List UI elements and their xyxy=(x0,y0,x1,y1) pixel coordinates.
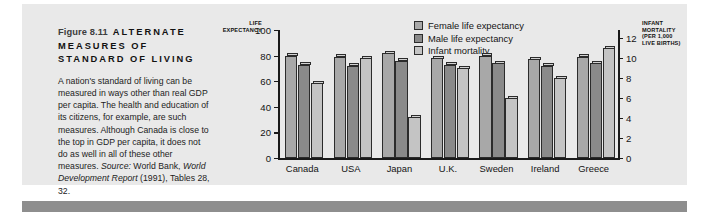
bar-top-cap xyxy=(530,57,540,60)
bar-top-cap xyxy=(398,58,408,61)
left-tick xyxy=(274,158,278,159)
left-tick-label: 20 xyxy=(241,127,271,138)
bar-top-cap xyxy=(349,63,359,66)
bar-male xyxy=(444,65,456,158)
right-tick-label: 0 xyxy=(626,153,650,164)
bar-infant xyxy=(603,48,615,158)
left-tick xyxy=(274,56,278,57)
bar-top-cap xyxy=(362,56,372,59)
bar-top-cap xyxy=(287,53,297,56)
right-tick-label: 4 xyxy=(626,113,650,124)
category-label: Sweden xyxy=(472,163,521,174)
footer-bar xyxy=(22,201,687,212)
bar-group xyxy=(479,30,517,158)
right-tick-label: 12 xyxy=(626,33,650,44)
left-tick xyxy=(274,107,278,108)
bar-top-cap xyxy=(605,46,615,49)
right-axis-title-line2: MORTALITY xyxy=(642,27,702,34)
bar-top-cap xyxy=(543,63,553,66)
bar-female xyxy=(528,59,540,158)
left-tick xyxy=(274,30,278,31)
caption-block: Figure 8.11 ALTERNATE MEASURES OF STANDA… xyxy=(58,26,210,197)
right-tick xyxy=(619,38,623,39)
bar-top-cap xyxy=(579,54,589,57)
bar-top-cap xyxy=(300,62,310,65)
bar-infant xyxy=(554,78,566,158)
right-axis-title-line1: INFANT xyxy=(642,20,702,27)
left-tick-label: 80 xyxy=(241,50,271,61)
legend-swatch-female xyxy=(414,21,423,30)
bar-infant xyxy=(505,98,517,158)
bar-top-cap xyxy=(446,62,456,65)
bar-male xyxy=(541,66,553,158)
left-tick-label: 0 xyxy=(241,153,271,164)
figure-page: Figure 8.11 ALTERNATE MEASURES OF STANDA… xyxy=(0,0,709,219)
bar-top-cap xyxy=(313,81,323,84)
bar-female xyxy=(285,56,297,158)
bar-top-cap xyxy=(482,53,492,56)
category-label: U.K. xyxy=(424,163,473,174)
bar-chart: LIFE EXPECTANCY INFANT MORTALITY (PER 1,… xyxy=(218,18,688,183)
right-tick xyxy=(619,58,623,59)
category-label: Canada xyxy=(278,163,327,174)
bar-group xyxy=(431,30,469,158)
right-axis-title-line4: LIVE BIRTHS) xyxy=(642,40,702,47)
caption-source-label: Source: xyxy=(101,161,131,171)
caption-text: A nation's standard of living can be mea… xyxy=(58,75,210,197)
category-label: Japan xyxy=(375,163,424,174)
left-tick-label: 100 xyxy=(241,25,271,36)
bar-top-cap xyxy=(495,61,505,64)
bar-top-cap xyxy=(336,54,346,57)
category-label: Greece xyxy=(569,163,618,174)
bar-infant xyxy=(457,68,469,158)
bar-male xyxy=(395,61,407,158)
bar-top-cap xyxy=(385,51,395,54)
right-tick xyxy=(619,78,623,79)
bar-female xyxy=(577,57,589,158)
bar-infant xyxy=(408,117,420,158)
right-tick xyxy=(619,138,623,139)
plot-inner: 020406080100024681012CanadaUSAJapanU.K.S… xyxy=(278,30,618,158)
figure-headline: Figure 8.11 ALTERNATE MEASURES OF STANDA… xyxy=(58,26,210,67)
right-tick-label: 8 xyxy=(626,73,650,84)
bar-top-cap xyxy=(433,56,443,59)
bar-male xyxy=(298,65,310,158)
left-tick-label: 60 xyxy=(241,76,271,87)
right-axis-title-line3: (PER 1,000 xyxy=(642,33,702,40)
left-tick xyxy=(274,81,278,82)
bar-male xyxy=(492,63,504,158)
bar-group xyxy=(577,30,615,158)
plot-area: 020406080100024681012CanadaUSAJapanU.K.S… xyxy=(278,30,618,158)
bar-infant xyxy=(311,83,323,158)
x-axis-line xyxy=(278,158,620,160)
right-tick-label: 2 xyxy=(626,133,650,144)
bar-group xyxy=(382,30,420,158)
left-axis-line xyxy=(278,30,280,158)
bar-male xyxy=(347,66,359,158)
right-tick-label: 10 xyxy=(626,53,650,64)
left-tick-label: 40 xyxy=(241,101,271,112)
bar-male xyxy=(590,63,602,158)
right-tick-label: 6 xyxy=(626,93,650,104)
bar-female xyxy=(431,58,443,158)
bar-female xyxy=(479,56,491,158)
category-label: Ireland xyxy=(521,163,570,174)
figure-number: Figure 8.11 xyxy=(58,27,108,37)
bar-group xyxy=(334,30,372,158)
bar-top-cap xyxy=(411,115,421,118)
bar-group xyxy=(285,30,323,158)
figure-panel: Figure 8.11 ALTERNATE MEASURES OF STANDA… xyxy=(22,4,687,185)
right-axis-title: INFANT MORTALITY (PER 1,000 LIVE BIRTHS) xyxy=(642,20,702,46)
left-tick xyxy=(274,132,278,133)
caption-body-2: World Bank, xyxy=(131,161,183,171)
right-tick xyxy=(619,118,623,119)
bar-top-cap xyxy=(592,61,602,64)
category-label: USA xyxy=(327,163,376,174)
bar-top-cap xyxy=(508,96,518,99)
bar-infant xyxy=(360,58,372,158)
bar-female xyxy=(382,53,394,158)
bar-female xyxy=(334,57,346,158)
bar-group xyxy=(528,30,566,158)
right-tick xyxy=(619,98,623,99)
right-tick xyxy=(619,158,623,159)
